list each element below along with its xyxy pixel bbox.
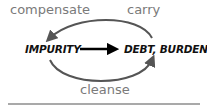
label-carry: carry bbox=[127, 3, 160, 16]
label-cleanse: cleanse bbox=[80, 83, 130, 96]
node-impurity: IMPURITY bbox=[25, 44, 81, 55]
top-arc-arrow bbox=[50, 20, 152, 38]
label-compensate: compensate bbox=[10, 3, 90, 16]
node-debt-burden: DEBT, BURDEN bbox=[124, 44, 207, 55]
bottom-arc-arrow bbox=[50, 60, 152, 81]
